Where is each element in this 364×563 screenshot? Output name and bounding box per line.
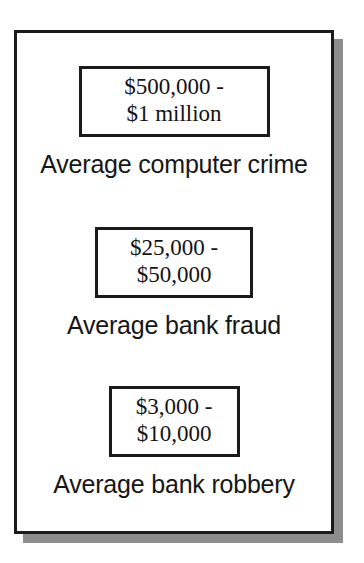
value-box-computer-crime: $500,000 - $1 million (79, 66, 270, 137)
crime-value-comparison-diagram: $500,000 - $1 million Average computer c… (0, 0, 364, 563)
value-box-bank-fraud: $25,000 - $50,000 (95, 227, 253, 298)
value-line-upper: $3,000 - (124, 393, 225, 420)
diagram-panel: $500,000 - $1 million Average computer c… (14, 30, 334, 534)
value-line-lower: $10,000 (124, 420, 225, 447)
comparison-group-bank-robbery: $3,000 - $10,000 Average bank robbery (17, 386, 331, 499)
comparison-group-bank-fraud: $25,000 - $50,000 Average bank fraud (17, 227, 331, 340)
value-box-bank-robbery: $3,000 - $10,000 (109, 386, 240, 457)
value-line-upper: $500,000 - (94, 73, 255, 100)
caption-computer-crime: Average computer crime (17, 149, 331, 179)
comparison-group-computer-crime: $500,000 - $1 million Average computer c… (17, 66, 331, 179)
value-line-lower: $1 million (94, 100, 255, 127)
value-line-lower: $50,000 (110, 261, 238, 288)
caption-bank-robbery: Average bank robbery (17, 469, 331, 499)
caption-bank-fraud: Average bank fraud (17, 310, 331, 340)
value-line-upper: $25,000 - (110, 234, 238, 261)
